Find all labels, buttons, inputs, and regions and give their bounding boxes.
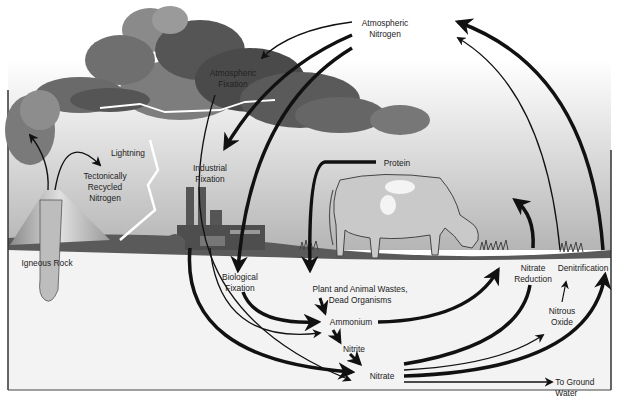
label-to-ground-water: To Ground Water <box>555 376 604 398</box>
label-nitrate: Nitrate <box>363 370 402 381</box>
label-atmospheric-fixation: Atmospheric Fixation <box>202 67 264 89</box>
label-plant-animal-wastes: Plant and Animal Wastes, Dead Organisms <box>307 283 413 305</box>
label-industrial-fixation: Industrial Fixation <box>184 162 237 184</box>
nitrogen-cycle-diagram: Atmospheric Nitrogen Atmospheric Fixatio… <box>0 0 619 405</box>
label-lightning: Lightning <box>106 147 150 158</box>
label-atmospheric-nitrogen: Atmospheric Nitrogen <box>350 17 420 39</box>
label-biological-fixation: Biological Fixation <box>215 271 264 293</box>
label-tectonically-recycled-nitrogen: Tectonically Recycled Nitrogen <box>74 170 136 203</box>
label-nitrous-oxide: Nitrous Oxide <box>543 305 582 327</box>
label-nitrate-reduction: Nitrate Reduction <box>511 262 555 284</box>
label-ammonium: Ammonium <box>324 316 379 327</box>
label-igneous-rock: Igneous Rock <box>16 257 78 268</box>
label-denitrification: Denitrification <box>554 262 612 273</box>
label-protein: Protein <box>377 157 417 168</box>
label-nitrite: Nitrite <box>336 343 371 354</box>
